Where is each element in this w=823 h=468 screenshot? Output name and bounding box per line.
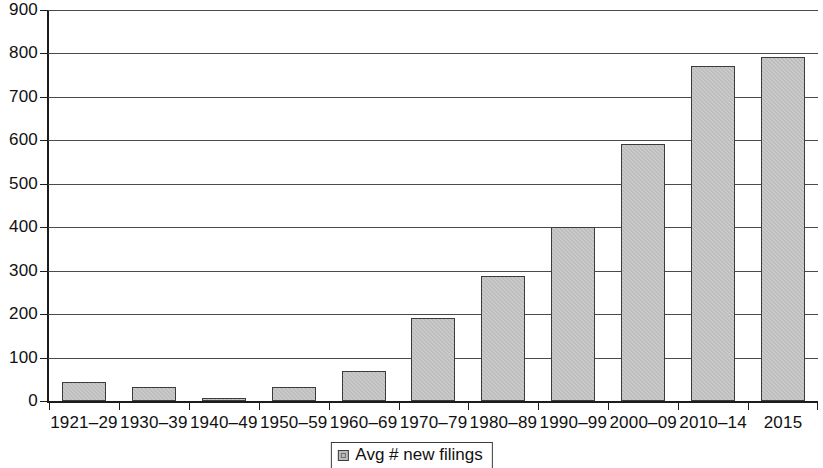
y-tick-label: 700 [9, 87, 38, 107]
bar[interactable] [761, 57, 805, 401]
bar[interactable] [691, 66, 735, 401]
y-tick-mark [40, 358, 48, 359]
y-tick-mark [40, 314, 48, 315]
y-axis-labels: 0100200300400500600700800900 [0, 0, 38, 468]
y-tick-label: 500 [9, 174, 38, 194]
bar-slot [468, 10, 538, 401]
x-tick-mark [49, 401, 50, 410]
y-tick-label: 900 [9, 0, 38, 20]
y-tick-label: 600 [9, 130, 38, 150]
legend-square-icon [337, 450, 348, 461]
x-tick-mark [538, 401, 539, 410]
bar[interactable] [62, 382, 106, 401]
y-tick-mark [40, 97, 48, 98]
x-tick-label: 1990–99 [540, 413, 608, 433]
x-tick-label: 1980–89 [470, 413, 538, 433]
x-tick-label: 1940–49 [190, 413, 258, 433]
bar-slot [259, 10, 329, 401]
bar[interactable] [551, 227, 595, 401]
x-tick-label: 1930–39 [120, 413, 188, 433]
bar[interactable] [272, 387, 316, 401]
chart-legend: Avg # new filings [330, 442, 492, 468]
bar-slot [399, 10, 469, 401]
y-tick-mark [40, 401, 48, 402]
bar-slot [748, 10, 818, 401]
y-tick-label: 800 [9, 43, 38, 63]
bar-chart: 0100200300400500600700800900 1921–291930… [0, 0, 823, 468]
bar-slot [678, 10, 748, 401]
y-tick-mark [40, 184, 48, 185]
x-tick-label: 1970–79 [400, 413, 468, 433]
x-tick-mark [748, 401, 749, 410]
y-tick-label: 0 [28, 391, 38, 411]
bar-slot [608, 10, 678, 401]
y-tick-mark [40, 53, 48, 54]
x-tick-label: 2015 [764, 413, 803, 433]
y-tick-label: 100 [9, 348, 38, 368]
y-tick-label: 300 [9, 261, 38, 281]
x-tick-mark [189, 401, 190, 410]
x-tick-mark [468, 401, 469, 410]
bar-slot [189, 10, 259, 401]
bar[interactable] [481, 276, 525, 401]
bar-slot [49, 10, 119, 401]
x-axis: 1921–291930–391940–491950–591960–691970–… [49, 401, 818, 441]
bar-slot [329, 10, 399, 401]
y-tick-mark [40, 227, 48, 228]
y-tick-label: 400 [9, 217, 38, 237]
x-tick-label: 2010–14 [679, 413, 747, 433]
bars-layer [49, 10, 818, 401]
x-tick-label: 1950–59 [260, 413, 328, 433]
x-tick-mark [817, 401, 818, 410]
y-tick-label: 200 [9, 304, 38, 324]
x-tick-mark [678, 401, 679, 410]
y-tick-mark [40, 140, 48, 141]
bar[interactable] [342, 371, 386, 401]
x-tick-mark [329, 401, 330, 410]
bar[interactable] [621, 144, 665, 401]
bar[interactable] [411, 318, 455, 401]
bar-slot [119, 10, 189, 401]
x-tick-mark [119, 401, 120, 410]
x-tick-label: 1921–29 [50, 413, 118, 433]
x-tick-mark [399, 401, 400, 410]
x-tick-label: 2000–09 [609, 413, 677, 433]
x-tick-mark [259, 401, 260, 410]
y-tick-mark [40, 271, 48, 272]
bar[interactable] [132, 387, 176, 401]
x-tick-label: 1960–69 [330, 413, 398, 433]
bar-slot [538, 10, 608, 401]
y-tick-mark [40, 10, 48, 11]
x-tick-mark [608, 401, 609, 410]
legend-series-label: Avg # new filings [355, 445, 482, 465]
